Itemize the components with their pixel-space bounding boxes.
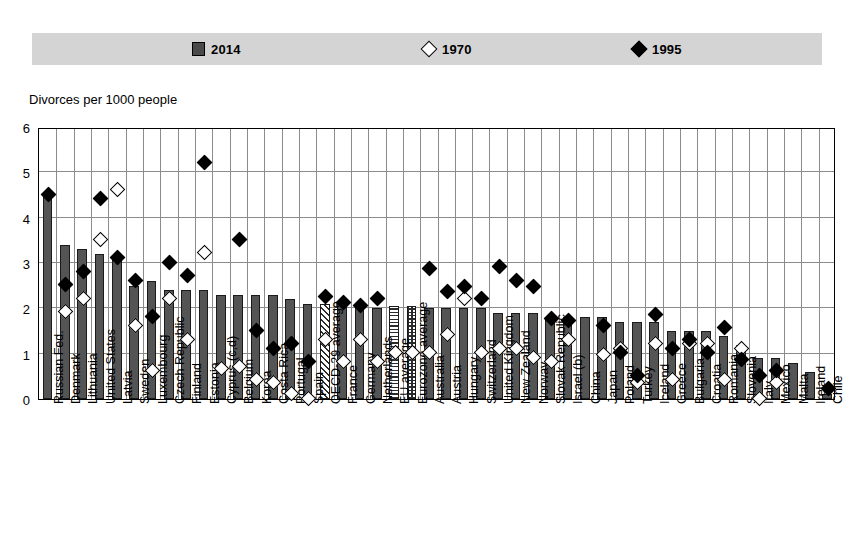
chart-column [459, 129, 469, 399]
plot-frame [38, 128, 835, 400]
chart-column [181, 129, 191, 399]
filled-square-icon [192, 42, 205, 56]
gridline-vertical [541, 129, 542, 399]
bar-2014 [615, 322, 625, 399]
bar-2014 [320, 304, 330, 399]
chart-column [268, 129, 278, 399]
gridline-vertical [524, 129, 525, 399]
legend-label-2014: 2014 [211, 42, 241, 57]
gridline-vertical [767, 129, 768, 399]
gridline-vertical [230, 129, 231, 399]
bar-2014 [788, 363, 798, 399]
gridline-vertical [455, 129, 456, 399]
marker-1995 [647, 306, 663, 322]
gridline-vertical [212, 129, 213, 399]
gridline-vertical [316, 129, 317, 399]
chart-column [771, 129, 781, 399]
gridline-vertical [91, 129, 92, 399]
chart-column [95, 129, 105, 399]
gridline-vertical [195, 129, 196, 399]
chart-column [511, 129, 521, 399]
chart-column [320, 129, 330, 399]
bar-2014 [43, 195, 53, 399]
chart-column [545, 129, 555, 399]
chart-column [753, 129, 763, 399]
gridline-vertical [282, 129, 283, 399]
filled-diamond-icon [631, 41, 648, 58]
bar-2014 [233, 295, 243, 399]
chart-column [476, 129, 486, 399]
gridline-vertical [507, 129, 508, 399]
bar-2014 [493, 313, 503, 399]
gridline-vertical [576, 129, 577, 399]
chart-column [337, 129, 347, 399]
chart-column [389, 129, 399, 399]
chart-column [597, 129, 607, 399]
gridline-vertical [56, 129, 57, 399]
gridline-vertical [334, 129, 335, 399]
gridline-vertical [438, 129, 439, 399]
marker-1995 [509, 272, 525, 288]
chart-column [129, 129, 139, 399]
y-tick-label: 3 [2, 257, 30, 272]
gridline-vertical [126, 129, 127, 399]
gridline-vertical [680, 129, 681, 399]
chart-column [303, 129, 313, 399]
chart-column [615, 129, 625, 399]
y-tick-label: 2 [2, 302, 30, 317]
marker-1995 [162, 254, 178, 270]
bar-2014 [60, 245, 70, 399]
chart-column [822, 129, 832, 399]
chart-column [667, 129, 677, 399]
bar-2014 [649, 322, 659, 399]
gridline-vertical [368, 129, 369, 399]
y-tick-label: 5 [2, 166, 30, 181]
chart-column [199, 129, 209, 399]
gridline-vertical [403, 129, 404, 399]
chart-plot-area [38, 128, 835, 400]
marker-1995 [370, 291, 386, 307]
gridline-vertical [420, 129, 421, 399]
gridline-vertical [645, 129, 646, 399]
legend-label-1970: 1970 [442, 42, 472, 57]
chart-column [684, 129, 694, 399]
bar-2014 [805, 372, 815, 399]
chart-column [632, 129, 642, 399]
gridline-vertical [819, 129, 820, 399]
bar-2014 [355, 308, 365, 399]
y-tick-label: 4 [2, 211, 30, 226]
chart-column [216, 129, 226, 399]
chart-column [441, 129, 451, 399]
gridline-vertical [628, 129, 629, 399]
chart-column [355, 129, 365, 399]
marker-1995 [474, 291, 490, 307]
chart-column [164, 129, 174, 399]
marker-1995 [179, 268, 195, 284]
gridline-vertical [593, 129, 594, 399]
bar-2014 [441, 308, 451, 399]
chart-column [407, 129, 417, 399]
chart-column [701, 129, 711, 399]
gridline-vertical [663, 129, 664, 399]
marker-1970 [93, 232, 109, 248]
open-diamond-icon [421, 41, 438, 58]
gridline-vertical [299, 129, 300, 399]
bar-2014 [459, 308, 469, 399]
chart-axis-title: Divorces per 1000 people [29, 92, 177, 107]
marker-1970 [110, 182, 126, 198]
gridline-vertical [351, 129, 352, 399]
chart-column [528, 129, 538, 399]
bar-2014 [303, 304, 313, 399]
bar-2014 [216, 295, 226, 399]
legend-entry-2014: 2014 [192, 42, 241, 57]
marker-1995 [717, 320, 733, 336]
gridline-vertical [784, 129, 785, 399]
gridline-vertical [611, 129, 612, 399]
marker-1995 [231, 232, 247, 248]
gridline-vertical [108, 129, 109, 399]
marker-1970 [197, 245, 213, 261]
gridline-vertical [489, 129, 490, 399]
bar-2014 [580, 317, 590, 399]
bar-2014 [563, 317, 573, 399]
gridline-vertical [74, 129, 75, 399]
